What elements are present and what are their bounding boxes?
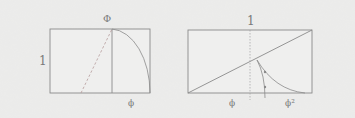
side-label: 1 <box>39 54 47 68</box>
golden-ratio-diagram: Φ 1 ϕ 1 ϕ ϕ² <box>0 0 355 118</box>
arrow-marker <box>264 86 266 88</box>
bottom-left-label: ϕ <box>229 98 235 108</box>
top-label: Φ <box>103 13 111 24</box>
bottom-label: ϕ <box>128 98 134 108</box>
bottom-right-label: ϕ² <box>285 98 295 108</box>
top-label: 1 <box>247 14 255 28</box>
arrow-marker <box>264 71 266 73</box>
